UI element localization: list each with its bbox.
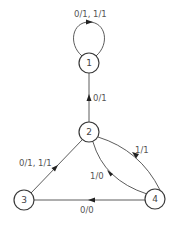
state-diagram: 0/1, 1/1 0/1 0/1, 1/1 1/1 1/0 0/0 1 2 3 …	[0, 0, 177, 228]
arrow-icon	[88, 198, 95, 203]
node-4: 4	[145, 189, 165, 209]
edge-label-1-1: 0/1, 1/1	[74, 9, 107, 19]
edge-label-4-3: 0/0	[80, 205, 94, 215]
edge-label-2-4: 1/0	[90, 171, 104, 181]
arrow-icon	[87, 94, 92, 101]
node-1: 1	[79, 53, 99, 73]
edge-1-1	[74, 22, 105, 56]
edge-label-2-1: 0/1	[93, 93, 107, 103]
edge-label-3-2: 0/1, 1/1	[19, 158, 52, 168]
arrow-icon	[107, 170, 113, 177]
arrow-icon	[86, 20, 93, 25]
edge-4-2	[98, 137, 160, 190]
svg-text:1: 1	[86, 58, 92, 68]
svg-text:3: 3	[21, 195, 27, 205]
svg-text:2: 2	[86, 127, 92, 137]
node-3: 3	[14, 190, 34, 210]
edge-label-4-2: 1/1	[135, 145, 149, 155]
node-2: 2	[79, 122, 99, 142]
svg-text:4: 4	[152, 194, 158, 204]
